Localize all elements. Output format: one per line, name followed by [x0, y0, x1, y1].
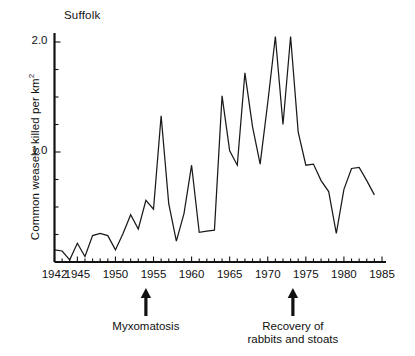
- annotation-recovery-line1: Recovery of: [231, 320, 355, 333]
- x-tick-label: 1960: [172, 268, 212, 280]
- annotation-arrows-group: [141, 288, 298, 316]
- x-tick-label: 1950: [95, 268, 135, 280]
- x-tick-label: 1955: [134, 268, 174, 280]
- chart-figure: Suffolk Common weasels killed per km2 2.…: [0, 0, 415, 356]
- y-tick-label: 1.0: [14, 144, 48, 156]
- arrow-head: [288, 288, 298, 298]
- x-tick-label: 1985: [362, 268, 402, 280]
- y-axis-title-exponent: 2: [27, 74, 36, 79]
- line-chart-canvas: [0, 0, 415, 356]
- data-line-common-weasels: [55, 37, 375, 260]
- x-tick-label: 1970: [248, 268, 288, 280]
- arrow-head: [141, 288, 151, 298]
- annotation-recovery-label: Recovery of rabbits and stoats: [231, 320, 355, 346]
- data-series-group: [55, 37, 375, 260]
- annotation-arrow-myxomatosis: [141, 288, 151, 316]
- annotation-myxomatosis-label: Myxomatosis: [86, 320, 206, 333]
- x-tick-label: 1975: [286, 268, 326, 280]
- x-tick-label: 1945: [57, 268, 97, 280]
- panel-title: Suffolk: [64, 9, 100, 21]
- y-axis-title: Common weasels killed per km2: [27, 47, 41, 267]
- annotation-arrow-recovery: [288, 288, 298, 316]
- x-tick-label: 1965: [210, 268, 250, 280]
- x-tick-label: 1980: [324, 268, 364, 280]
- axes-group: [55, 33, 387, 262]
- y-axis-title-text: Common weasels killed per km: [29, 78, 41, 240]
- y-tick-label: 2.0: [14, 34, 48, 46]
- annotation-recovery-line2: rabbits and stoats: [231, 333, 355, 346]
